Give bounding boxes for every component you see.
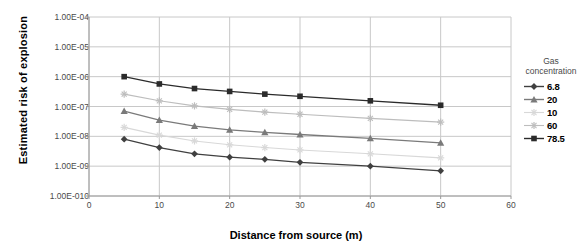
plot-area [0,0,583,242]
legend-item-6.8[interactable]: 6.8 [520,80,582,93]
legend-title: Gas concentration [520,57,582,77]
legend-label: 20 [545,94,557,105]
legend-marker-icon [523,119,545,132]
chart-container: Estimated risk of explosion Distance fro… [0,0,583,242]
legend-marker-icon [523,93,545,106]
legend-marker-icon [523,106,545,119]
legend-item-60[interactable]: 60 [520,119,582,132]
legend-marker-icon [523,132,545,145]
legend-item-10[interactable]: 10 [520,106,582,119]
legend-item-78.5[interactable]: 78.5 [520,132,582,145]
chart-legend: Gas concentration 6.820106078.5 [520,57,582,145]
legend-item-20[interactable]: 20 [520,93,582,106]
legend-label: 78.5 [545,133,565,144]
legend-label: 60 [545,120,557,131]
legend-marker-icon [523,80,545,93]
legend-label: 6.8 [545,81,560,92]
legend-entries: 6.820106078.5 [520,80,582,145]
legend-label: 10 [545,107,557,118]
